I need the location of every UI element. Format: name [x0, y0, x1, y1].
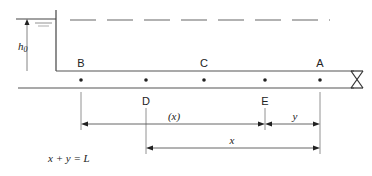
- point-b-dot: [79, 78, 83, 82]
- point-e-label: E: [261, 95, 268, 107]
- point-markers: [79, 78, 322, 82]
- point-a-dot: [318, 78, 322, 82]
- water-level-symbol-icon: [35, 23, 52, 26]
- point-b-label: B: [77, 57, 84, 69]
- point-c-label: C: [200, 57, 208, 69]
- extension-lines: [81, 92, 320, 154]
- dimension-b-to-e-label: (x): [168, 110, 181, 123]
- dimension-e-to-a: [265, 122, 320, 127]
- point-d-label: D: [142, 95, 150, 107]
- dimension-d-to-a-label: x: [229, 134, 235, 146]
- pipeline-diagram: h0 B D C E A (x): [0, 0, 372, 176]
- valve-icon: [351, 71, 363, 88]
- point-e-dot: [263, 78, 267, 82]
- dimension-b-to-e: [81, 122, 265, 127]
- pipe: [18, 71, 354, 88]
- dimension-d-to-a: [146, 146, 320, 151]
- point-d-dot: [144, 78, 148, 82]
- dimension-e-to-a-label: y: [292, 110, 298, 122]
- head-label: h0: [18, 40, 28, 54]
- length-equation: x + y = L: [47, 152, 90, 164]
- point-c-dot: [202, 78, 206, 82]
- point-a-label: A: [316, 57, 324, 69]
- reservoir: h0: [16, 10, 56, 71]
